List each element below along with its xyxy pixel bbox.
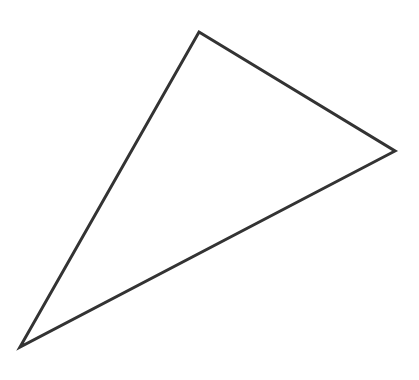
triangle-figure — [0, 0, 419, 380]
diagram-canvas — [0, 0, 419, 380]
triangle-shape — [20, 32, 395, 347]
